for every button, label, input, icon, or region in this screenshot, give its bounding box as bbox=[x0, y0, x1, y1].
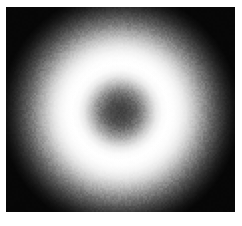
intensity-image-field bbox=[6, 7, 235, 212]
center-dip-layer bbox=[6, 7, 235, 212]
figure-root bbox=[0, 0, 242, 226]
